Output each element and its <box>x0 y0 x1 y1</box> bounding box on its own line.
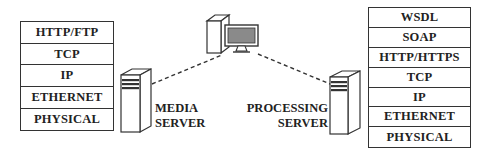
processing-server-protocol-stack: WSDL SOAP HTTP/HTTPS TCP IP ETHERNET PHY… <box>368 7 471 148</box>
stack-layer-ethernet: ETHERNET <box>21 87 113 109</box>
media-server-icon <box>121 69 151 132</box>
processing-server-icon <box>330 71 360 134</box>
media-server-label: MEDIA SERVER <box>155 101 205 131</box>
stack-layer-wsdl: WSDL <box>369 8 470 28</box>
stack-layer-ip: IP <box>369 88 470 108</box>
stack-layer-soap: SOAP <box>369 28 470 48</box>
stack-layer-ip: IP <box>21 65 113 87</box>
media-server-label-line2: SERVER <box>155 116 205 131</box>
desktop-computer-icon <box>207 15 258 53</box>
media-to-client-link <box>152 55 222 84</box>
stack-layer-physical: PHYSICAL <box>21 109 113 131</box>
stack-layer-http-https: HTTP/HTTPS <box>369 48 470 68</box>
stack-layer-tcp: TCP <box>21 44 113 66</box>
stack-layer-ethernet: ETHERNET <box>369 107 470 127</box>
stack-layer-tcp: TCP <box>369 68 470 88</box>
media-server-protocol-stack: HTTP/FTP TCP IP ETHERNET PHYSICAL <box>20 21 114 131</box>
processing-server-label-line1: PROCESSING <box>244 101 328 116</box>
processing-server-label: PROCESSING SERVER <box>244 101 328 131</box>
stack-layer-http-ftp: HTTP/FTP <box>21 22 113 44</box>
client-to-processing-link <box>258 54 330 84</box>
processing-server-label-line2: SERVER <box>244 116 328 131</box>
media-server-label-line1: MEDIA <box>155 101 205 116</box>
stack-layer-physical: PHYSICAL <box>369 127 470 147</box>
